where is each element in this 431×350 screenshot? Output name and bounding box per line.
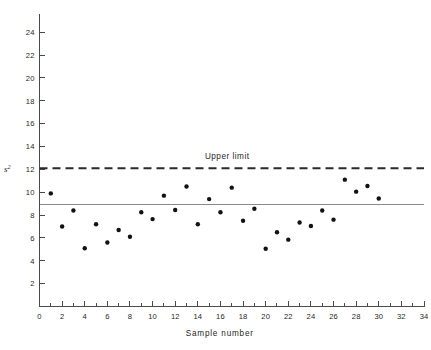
y-tick-label: 16	[26, 119, 35, 128]
y-tick-label: 24	[26, 28, 35, 37]
data-point	[331, 217, 335, 221]
data-point	[377, 196, 381, 200]
x-tick-label: 2	[60, 312, 64, 321]
data-point	[207, 197, 211, 201]
data-point	[354, 189, 358, 193]
y-tick-label: 20	[26, 74, 35, 83]
data-point	[365, 184, 369, 188]
data-point	[116, 228, 120, 232]
data-point	[105, 240, 109, 244]
x-tick-label: 12	[171, 312, 180, 321]
x-tick-label: 28	[352, 312, 361, 321]
y-tick-label: 2	[30, 279, 34, 288]
data-point	[184, 184, 188, 188]
data-point	[286, 237, 290, 241]
data-point	[241, 219, 245, 223]
data-point	[343, 177, 347, 181]
upper-limit-label: Upper limit	[205, 152, 250, 161]
chart-background	[0, 0, 431, 350]
y-tick-label: 22	[26, 51, 35, 60]
x-tick-label: 32	[397, 312, 406, 321]
x-tick-label: 6	[105, 312, 109, 321]
y-tick-label: 10	[26, 188, 35, 197]
data-point	[297, 220, 301, 224]
data-point	[139, 210, 143, 214]
data-point	[173, 208, 177, 212]
chart-canvas: 24681012141618202224 0246810121416182022…	[0, 0, 431, 350]
y-tick-label: 14	[26, 142, 35, 151]
x-axis-title: Sample number	[186, 329, 254, 338]
data-point	[162, 193, 166, 197]
data-point	[275, 230, 279, 234]
x-tick-label: 4	[83, 312, 87, 321]
x-tick-label: 14	[193, 312, 202, 321]
x-tick-label: 34	[420, 312, 429, 321]
y-tick-label: 12	[26, 165, 35, 174]
data-point	[71, 208, 75, 212]
y-tick-label: 8	[30, 211, 34, 220]
y-tick-label: 6	[30, 234, 34, 243]
y-tick-label: 4	[30, 257, 34, 266]
x-tick-label: 18	[239, 312, 248, 321]
control-chart: 24681012141618202224 0246810121416182022…	[0, 0, 431, 350]
x-tick-label: 20	[261, 312, 270, 321]
x-tick-label: 10	[148, 312, 157, 321]
x-tick-label: 8	[128, 312, 132, 321]
x-tick-label: 16	[216, 312, 225, 321]
data-point	[263, 247, 267, 251]
data-point	[94, 222, 98, 226]
data-point	[309, 224, 313, 228]
data-point	[252, 207, 256, 211]
data-point	[196, 222, 200, 226]
x-tick-label: 0	[37, 312, 41, 321]
data-point	[60, 224, 64, 228]
x-tick-label: 30	[374, 312, 383, 321]
data-point	[218, 210, 222, 214]
x-tick-label: 22	[284, 312, 293, 321]
y-axis-title-exponent: 2	[8, 163, 11, 170]
data-point	[320, 208, 324, 212]
data-point	[83, 246, 87, 250]
x-tick-label: 26	[329, 312, 338, 321]
y-tick-label: 18	[26, 97, 35, 106]
data-point	[49, 191, 53, 195]
data-point	[230, 185, 234, 189]
x-tick-label: 24	[307, 312, 316, 321]
data-point	[150, 217, 154, 221]
data-point	[128, 235, 132, 239]
